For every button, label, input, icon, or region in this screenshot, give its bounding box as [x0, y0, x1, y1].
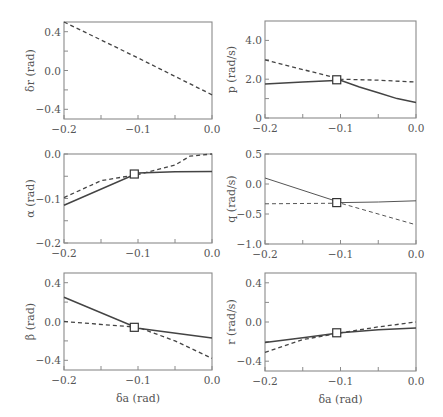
x-tick-label: −0.2 — [51, 374, 77, 386]
y-tick-label: −0.4 — [237, 355, 263, 367]
x-tick-label: 0.0 — [408, 122, 425, 134]
subplot-p: −0.2−0.10.002.04.0p (rad/s) — [225, 21, 424, 134]
y-tick-label: 0.0 — [44, 148, 61, 160]
y-tick-label: 0.0 — [245, 316, 262, 328]
x-tick-label: −0.1 — [125, 123, 151, 135]
series-dashed-line — [64, 22, 212, 95]
y-tick-label: 2.0 — [245, 73, 262, 85]
y-tick-label: 0 — [255, 112, 262, 124]
x-tick-label: 0.0 — [204, 374, 221, 386]
y-tick-label: 0.4 — [44, 26, 61, 38]
trim-point-marker — [130, 170, 138, 178]
y-tick-label: 0.5 — [245, 148, 262, 160]
y-axis-label: α (rad) — [24, 179, 37, 217]
y-tick-label: 0.0 — [44, 316, 61, 328]
y-tick-label: 0.4 — [44, 277, 61, 289]
y-tick-label: −0.4 — [36, 354, 62, 366]
x-tick-label: 0.0 — [204, 247, 221, 259]
trim-point-marker — [333, 76, 341, 84]
x-tick-label: −0.1 — [125, 374, 151, 386]
x-tick-label: 0.0 — [408, 248, 425, 260]
axes-frame — [265, 273, 416, 371]
x-tick-label: −0.1 — [328, 375, 354, 387]
x-tick-label: 0.0 — [204, 123, 221, 135]
y-tick-label: 4.0 — [245, 34, 262, 46]
x-tick-label: −0.2 — [51, 123, 77, 135]
x-tick-label: −0.1 — [328, 248, 354, 260]
trim-point-marker — [130, 323, 138, 331]
x-axis-label: δa (rad) — [116, 392, 160, 405]
subplot-q: −0.2−0.10.0−1.0−0.50.00.5q (rad/s) — [225, 148, 424, 260]
y-tick-label: −1.0 — [237, 238, 263, 250]
y-tick-label: −0.1 — [36, 193, 62, 205]
y-tick-label: −0.4 — [36, 103, 62, 115]
x-tick-label: −0.1 — [328, 122, 354, 134]
subplot-alpha: −0.2−0.10.0−0.2−0.10.0α (rad) — [24, 148, 220, 259]
trim-point-marker — [333, 199, 341, 207]
y-tick-label: 0.0 — [44, 65, 61, 77]
axes-frame — [64, 154, 212, 243]
x-tick-label: 0.0 — [408, 375, 425, 387]
x-axis-label: δa (rad) — [318, 393, 362, 406]
subplot-dr: −0.2−0.10.0−0.40.00.4δr (rad) — [24, 22, 220, 135]
y-axis-label: q (rad/s) — [225, 175, 238, 222]
subplot-r: −0.2−0.10.0−0.40.00.4r (rad/s)δa (rad) — [225, 273, 424, 406]
axes-frame — [64, 273, 212, 370]
axes-frame — [265, 21, 416, 118]
y-axis-label: δr (rad) — [24, 49, 37, 92]
axes-frame — [64, 22, 212, 119]
x-tick-label: −0.1 — [125, 247, 151, 259]
y-tick-label: 0.4 — [245, 277, 262, 289]
figure: −0.2−0.10.0−0.40.00.4δr (rad)−0.2−0.10.0… — [0, 0, 443, 417]
y-axis-label: p (rad/s) — [225, 46, 238, 93]
x-tick-label: −0.2 — [252, 375, 278, 387]
trim-point-marker — [333, 329, 341, 337]
y-axis-label: β (rad) — [24, 303, 37, 340]
y-tick-label: −0.2 — [36, 237, 62, 249]
y-axis-label: r (rad/s) — [225, 299, 238, 345]
subplot-beta: −0.2−0.10.0−0.40.00.4β (rad)δa (rad) — [24, 273, 220, 405]
y-tick-label: −0.5 — [237, 208, 263, 220]
y-tick-label: 0.0 — [245, 178, 262, 190]
